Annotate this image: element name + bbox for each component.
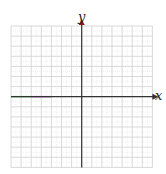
coordinate-plane [0,0,166,174]
x-axis-label: x [155,89,162,102]
y-axis-label: y [78,10,85,23]
